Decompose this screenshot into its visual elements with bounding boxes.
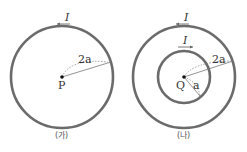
radius-label: 2a bbox=[78, 53, 92, 66]
figure-ga: I 2a P (가) bbox=[11, 11, 113, 140]
outer-radius-line bbox=[184, 61, 233, 77]
diagram-canvas: I 2a P (가) I I 2a a Q (나) bbox=[0, 0, 247, 152]
arrowhead-icon bbox=[176, 23, 179, 26]
inner-current-label: I bbox=[182, 34, 188, 47]
caption-ga: (가) bbox=[55, 131, 68, 140]
caption-na: (나) bbox=[177, 131, 190, 140]
center-label: P bbox=[58, 79, 66, 92]
arrowhead-icon bbox=[190, 46, 193, 49]
center-label: Q bbox=[176, 79, 185, 92]
current-label: I bbox=[64, 11, 70, 24]
outer-radius-label: 2a bbox=[212, 53, 226, 66]
outer-current-label: I bbox=[183, 11, 189, 24]
figure-na: I I 2a a Q (나) bbox=[133, 11, 235, 140]
inner-radius-label: a bbox=[193, 79, 200, 92]
